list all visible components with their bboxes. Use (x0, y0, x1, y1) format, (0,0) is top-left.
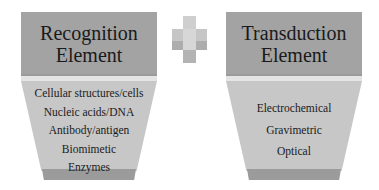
list-item: Electrochemical (257, 98, 332, 120)
transduction-title-line2: Element (261, 44, 328, 66)
list-item: Gravimetric (266, 120, 322, 142)
transduction-title-line1: Transduction (242, 22, 347, 44)
recognition-element-block: Recognition Element Cellular structures/… (21, 12, 157, 182)
transduction-list: Electrochemical Gravimetric Optical (226, 98, 362, 163)
transduction-header: Transduction Element (226, 12, 362, 76)
plus-icon (172, 16, 207, 63)
recognition-title-line1: Recognition (40, 22, 138, 44)
recognition-title-line2: Element (56, 44, 123, 66)
recognition-list: Cellular structures/cells Nucleic acids/… (21, 84, 157, 177)
transduction-element-block: Transduction Element Electrochemical Gra… (226, 12, 362, 182)
list-item: Optical (277, 141, 311, 163)
list-item: Enzymes (68, 158, 110, 177)
list-item: Nucleic acids/DNA (44, 103, 134, 122)
list-item: Biomimetic (62, 140, 116, 159)
list-item: Cellular structures/cells (35, 84, 144, 103)
transduction-base (247, 169, 341, 180)
divider (226, 76, 362, 81)
divider (21, 76, 157, 81)
list-item: Antibody/antigen (49, 121, 130, 140)
recognition-header: Recognition Element (21, 12, 157, 76)
